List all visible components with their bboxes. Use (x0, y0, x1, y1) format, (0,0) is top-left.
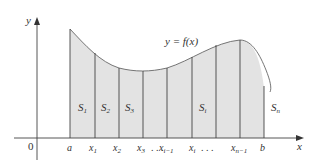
svg-text:. . .: . . . (201, 142, 214, 153)
y-axis-arrow-icon (34, 17, 40, 25)
origin-label: 0 (28, 140, 34, 152)
svg-text:xi−1: xi−1 (158, 142, 174, 155)
svg-text:x1: x1 (88, 142, 97, 155)
curve-label: y = f(x) (164, 35, 198, 48)
svg-text:a: a (67, 142, 72, 153)
riemann-strips-diagram: y x 0 y = f(x) a x1 x2 x3 . . . xi−1 xi … (0, 0, 335, 168)
svg-text:x3: x3 (136, 142, 145, 155)
svg-text:xi: xi (188, 142, 195, 155)
x-axis-label: x (296, 140, 302, 152)
svg-text:Sn: Sn (271, 101, 281, 115)
tick-labels: a x1 x2 x3 . . . xi−1 xi . . . xn−1 b (67, 142, 265, 155)
svg-text:xn−1: xn−1 (230, 142, 247, 155)
y-axis-label: y (25, 14, 31, 26)
svg-text:x2: x2 (112, 142, 121, 155)
svg-text:b: b (260, 142, 265, 153)
